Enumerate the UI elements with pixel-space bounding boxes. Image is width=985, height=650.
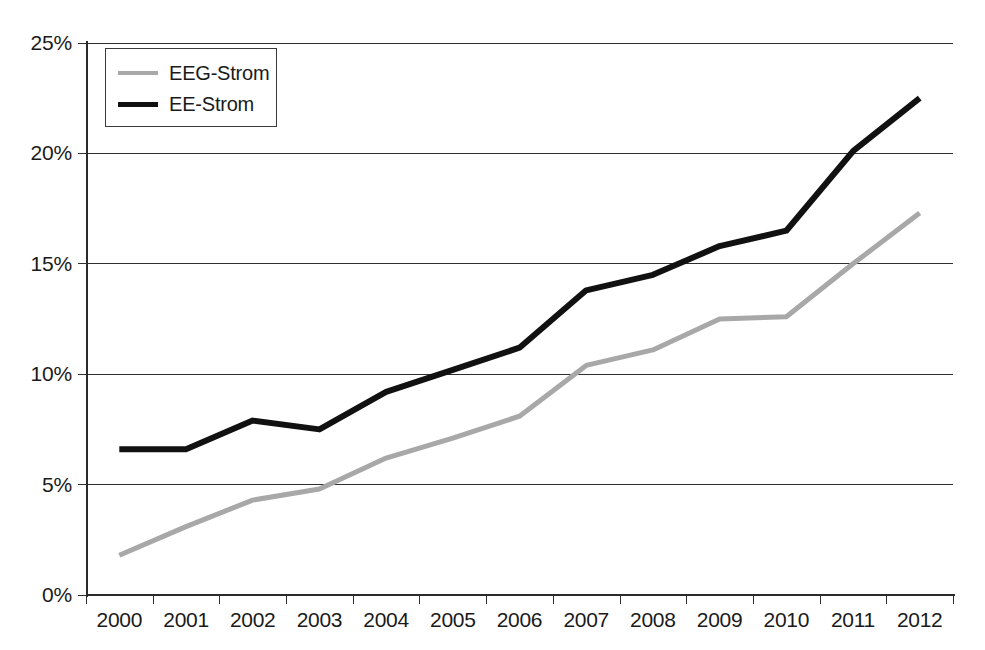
x-axis-tick bbox=[553, 596, 554, 604]
y-axis-tick-label: 20% bbox=[6, 142, 72, 163]
x-axis-tick bbox=[353, 596, 354, 604]
y-axis-tick-label: 25% bbox=[6, 32, 72, 53]
y-axis-tick bbox=[78, 263, 86, 264]
y-axis-tick bbox=[78, 153, 86, 154]
x-axis-tick bbox=[753, 596, 754, 604]
y-axis-tick bbox=[78, 484, 86, 485]
y-axis-tick-label-wrap: 10% bbox=[0, 363, 72, 384]
y-axis-tick bbox=[78, 43, 86, 44]
y-axis-tick-label-wrap: 25% bbox=[0, 32, 72, 53]
gridline bbox=[86, 153, 953, 154]
y-axis-tick-label: 10% bbox=[6, 363, 72, 384]
legend-item-eeg-strom: EEG-Strom bbox=[118, 60, 269, 86]
y-axis-line bbox=[86, 41, 88, 597]
x-axis-tick bbox=[953, 596, 954, 604]
y-axis-tick-label-wrap: 20% bbox=[0, 142, 72, 163]
x-axis-tick bbox=[86, 596, 87, 604]
y-axis-tick-label-wrap: 15% bbox=[0, 253, 72, 274]
y-axis-tick-label: 0% bbox=[6, 584, 72, 605]
x-axis-tick bbox=[286, 596, 287, 604]
legend-swatch-eeg-strom bbox=[118, 71, 158, 75]
line-chart: 0%5%10%15%20%25% 20002001200220032004200… bbox=[0, 0, 985, 650]
chart-legend: EEG-Strom EE-Strom bbox=[105, 48, 277, 127]
x-axis-tick bbox=[219, 596, 220, 604]
legend-label-eeg-strom: EEG-Strom bbox=[169, 63, 269, 83]
y-axis-tick-label-wrap: 5% bbox=[0, 474, 72, 495]
gridline bbox=[86, 374, 953, 375]
legend-item-ee-strom: EE-Strom bbox=[118, 91, 254, 117]
gridline bbox=[86, 484, 953, 485]
x-axis-tick bbox=[486, 596, 487, 604]
x-axis-tick bbox=[686, 596, 687, 604]
legend-label-ee-strom: EE-Strom bbox=[169, 94, 254, 114]
y-axis-tick-label: 15% bbox=[6, 253, 72, 274]
x-axis-tick-label: 2012 bbox=[880, 608, 960, 632]
y-axis-tick-label: 5% bbox=[6, 474, 72, 495]
x-axis-tick bbox=[620, 596, 621, 604]
series-line-ee-strom bbox=[119, 98, 919, 449]
y-axis-tick bbox=[78, 595, 86, 596]
x-axis-tick bbox=[419, 596, 420, 604]
x-axis-tick bbox=[820, 596, 821, 604]
gridline bbox=[86, 43, 953, 44]
y-axis-tick bbox=[78, 374, 86, 375]
x-axis-line bbox=[86, 594, 955, 596]
gridline bbox=[86, 263, 953, 264]
y-axis-tick-label-wrap: 0% bbox=[0, 584, 72, 605]
x-axis-tick bbox=[153, 596, 154, 604]
legend-swatch-ee-strom bbox=[118, 102, 158, 107]
x-axis-tick bbox=[886, 596, 887, 604]
series-line-eeg-strom bbox=[119, 213, 919, 555]
